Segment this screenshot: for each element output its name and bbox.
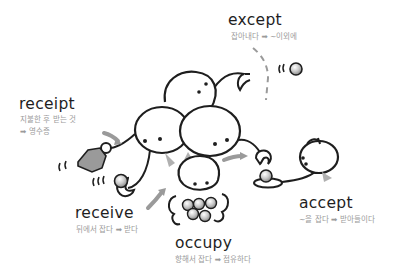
meaning-receipt-2: ➡ 영수증	[20, 126, 50, 137]
receipt-paper-icon	[78, 148, 106, 172]
meaning-receive: 뒤에서 잡다 ➡ 받다	[76, 224, 138, 235]
word-receive: receive	[75, 206, 134, 222]
motion-arrow-icon	[224, 156, 242, 160]
word-receipt: receipt	[19, 97, 75, 113]
person-with-tray	[254, 138, 338, 188]
meaning-accept: ~을 잡다 ➡ 받아들이다	[299, 214, 375, 225]
ball-icon	[93, 175, 128, 188]
word-except: except	[228, 13, 282, 29]
right-head	[180, 106, 240, 164]
meaning-occupy: 향해서 잡다 ➡ 점유하다	[175, 254, 251, 265]
dashed-arc-icon	[253, 48, 268, 100]
bottom-head	[169, 156, 228, 224]
hook-hand-icon	[256, 151, 271, 164]
word-accept: accept	[299, 196, 353, 212]
ball-icon	[279, 63, 302, 75]
motion-arrow-icon	[148, 192, 162, 208]
vocabulary-illustration: except 잡아내다 ➡ ~이외에 receipt 지불한 후 받는 것 ➡ …	[0, 0, 405, 273]
meaning-receipt-1: 지불한 후 받는 것	[20, 114, 76, 125]
meaning-except: 잡아내다 ➡ ~이외에	[231, 31, 297, 42]
hook-hand-icon	[238, 74, 250, 90]
creature-illustration	[0, 0, 405, 273]
word-occupy: occupy	[175, 236, 232, 252]
